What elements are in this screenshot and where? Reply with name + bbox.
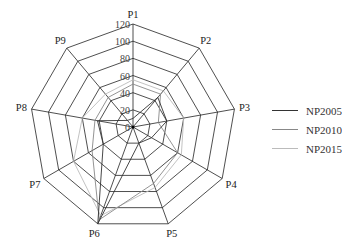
axis-label-p8: P8 xyxy=(16,102,27,113)
series-np2005 xyxy=(97,97,166,223)
axis-label-p6: P6 xyxy=(89,228,100,239)
legend-item: NP2015 xyxy=(272,139,342,158)
axis-label-p7: P7 xyxy=(29,179,40,190)
legend-label: NP2010 xyxy=(306,124,342,136)
axis-label-p2: P2 xyxy=(200,35,211,46)
legend: NP2005NP2010NP2015 xyxy=(272,101,342,158)
legend-item: NP2010 xyxy=(272,120,342,139)
legend-swatch xyxy=(272,148,298,149)
tick-label: 120 xyxy=(115,19,130,30)
tick-label: 20 xyxy=(120,105,130,116)
tick-label: 100 xyxy=(115,36,130,47)
axis-label-p4: P4 xyxy=(226,179,238,190)
legend-label: NP2015 xyxy=(306,143,342,155)
axis-label-p5: P5 xyxy=(166,228,177,239)
tick-label: 80 xyxy=(120,53,130,64)
axis-label-p1: P1 xyxy=(127,9,138,20)
axis-label-p3: P3 xyxy=(239,102,250,113)
center-dot xyxy=(132,126,135,129)
series-np2015 xyxy=(74,80,184,216)
legend-swatch xyxy=(272,110,298,111)
tick-label: 40 xyxy=(120,88,130,99)
radar-grid xyxy=(32,24,235,224)
tick-label: 60 xyxy=(120,71,130,82)
legend-label: NP2005 xyxy=(306,105,342,117)
axis-spoke xyxy=(44,127,133,179)
axis-label-p9: P9 xyxy=(55,35,66,46)
tick-label: 0 xyxy=(125,122,130,133)
legend-item: NP2005 xyxy=(272,101,342,120)
legend-swatch xyxy=(272,129,298,130)
